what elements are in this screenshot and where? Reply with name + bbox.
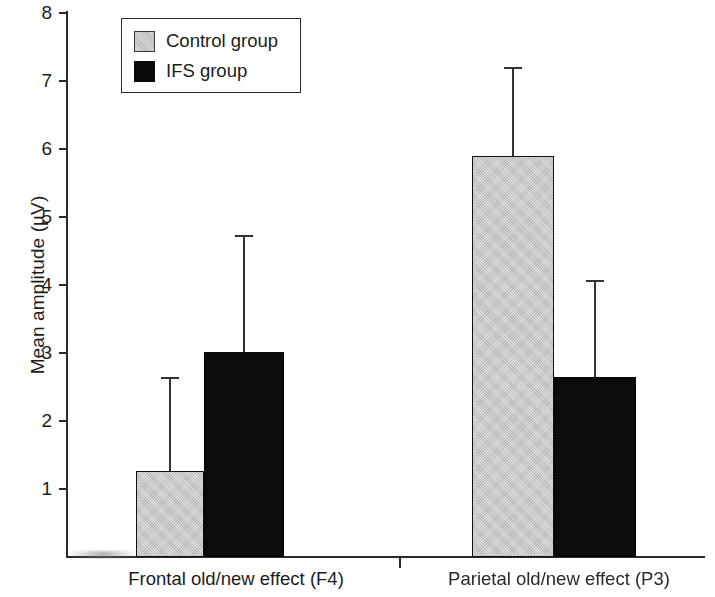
- error-bar-stem-parietal-control: [512, 67, 514, 155]
- category-label-parietal: Parietal old/new effect (P3): [409, 570, 709, 589]
- bar-frontal-ifs: [204, 352, 284, 557]
- y-axis-tick-label-7: 7: [26, 71, 52, 90]
- y-axis-tick-label-4: 4: [26, 275, 52, 294]
- bar-parietal-ifs: [554, 377, 636, 557]
- y-axis-tick-8: [59, 12, 68, 14]
- error-bar-cap-parietal-control: [504, 67, 522, 69]
- y-axis-tick-label-2: 2: [26, 411, 52, 430]
- y-axis-tick-3: [59, 352, 68, 354]
- category-label-frontal: Frontal old/new effect (F4): [86, 570, 386, 589]
- legend-item-control: Control group: [134, 26, 300, 56]
- legend-label-control: Control group: [166, 32, 278, 51]
- error-bar-stem-frontal-control: [169, 377, 171, 471]
- bar-parietal-control: [472, 156, 554, 557]
- y-axis-tick-4: [59, 284, 68, 286]
- error-bar-cap-frontal-control: [161, 377, 179, 379]
- y-axis-tick-6: [59, 148, 68, 150]
- y-axis-tick-label-3: 3: [26, 343, 52, 362]
- y-axis-tick-label-5: 5: [26, 207, 52, 226]
- y-axis-tick-label-8: 8: [26, 3, 52, 22]
- y-axis-tick-2: [59, 420, 68, 422]
- legend-swatch-control-icon: [134, 31, 155, 52]
- y-axis-tick-5: [59, 216, 68, 218]
- legend-swatch-ifs-icon: [134, 61, 155, 82]
- legend: Control group IFS group: [121, 18, 301, 93]
- error-bar-cap-frontal-ifs: [235, 235, 253, 237]
- bar-chart-figure: Mean amplitude (µV) 87654321 Frontal old…: [0, 0, 715, 597]
- x-axis-group-separator-tick: [399, 557, 401, 568]
- legend-label-ifs: IFS group: [166, 62, 247, 81]
- baseline-scan-artifact: [68, 551, 138, 558]
- y-axis-tick-label-6: 6: [26, 139, 52, 158]
- y-axis-tick-1: [59, 488, 68, 490]
- error-bar-stem-parietal-ifs: [594, 280, 596, 377]
- y-axis-tick-7: [59, 80, 68, 82]
- error-bar-cap-parietal-ifs: [586, 280, 604, 282]
- y-axis-tick-label-1: 1: [26, 479, 52, 498]
- legend-item-ifs: IFS group: [134, 56, 300, 86]
- bar-frontal-control: [136, 471, 204, 557]
- error-bar-stem-frontal-ifs: [243, 235, 245, 353]
